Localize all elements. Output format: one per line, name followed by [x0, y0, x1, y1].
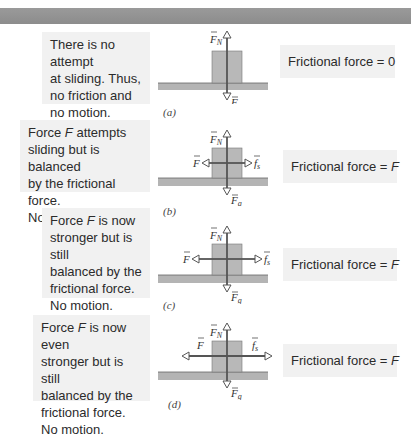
panel-c-description: Force F is now stronger but is still bal… — [42, 208, 150, 298]
description-line: balanced by the — [50, 263, 142, 280]
panel-c-caption: (c) — [163, 299, 175, 311]
vector-F: F — [87, 213, 95, 228]
friction-force-label: fs — [252, 339, 258, 353]
description-line: Force F is now even — [41, 319, 142, 353]
description-line: frictional force. — [41, 404, 142, 421]
result-value: F — [391, 257, 399, 272]
ground — [158, 372, 268, 380]
result-prefix: Frictional force = — [291, 257, 391, 272]
panel-a-caption: (a) — [163, 106, 176, 118]
result-prefix: Frictional force = — [291, 353, 391, 368]
panel-a-diagram: FN Fg — [150, 24, 280, 104]
panel-b-result: Frictional force = F — [283, 150, 397, 183]
result-value: F — [391, 159, 399, 174]
description-line: Force F attempts — [28, 124, 142, 141]
description-line: No motion. — [41, 421, 142, 438]
applied-force-label: F — [182, 253, 190, 265]
ground — [158, 83, 268, 90]
result-prefix: Frictional force = — [291, 159, 391, 174]
description-line: frictional force. — [50, 280, 142, 297]
ground — [158, 275, 268, 283]
panel-a-description: There is no attempt at sliding. Thus, no… — [42, 32, 150, 104]
applied-force-label: F — [192, 157, 200, 169]
description-line: stronger but is still — [41, 353, 142, 387]
panel-d-caption: (d) — [168, 398, 181, 410]
description-line: Force F is now — [50, 212, 142, 229]
vector-F: F — [78, 320, 86, 335]
description-line: at sliding. Thus, — [50, 70, 142, 87]
normal-force-label: FN — [209, 229, 223, 243]
panel-b-description: Force F attempts sliding but is balanced… — [20, 120, 150, 192]
description-line: no motion. — [50, 104, 142, 121]
description-line: No motion. — [50, 297, 142, 314]
description-line: stronger but is still — [50, 229, 142, 263]
description-line: no friction and — [50, 87, 142, 104]
gravity-force-label: Fg — [230, 291, 242, 304]
vector-F: F — [65, 125, 73, 140]
friction-force-label: fs — [264, 253, 270, 267]
ground — [158, 178, 268, 186]
description-line: sliding but is balanced — [28, 141, 142, 175]
result-value: F — [391, 353, 399, 368]
description-line: balanced by the — [41, 387, 142, 404]
result-value: 0 — [388, 54, 395, 69]
description-line: There is no attempt — [50, 36, 142, 70]
normal-force-label: FN — [209, 133, 223, 147]
description-line: by the frictional force. — [28, 175, 142, 209]
gravity-force-label: Fg — [230, 194, 242, 206]
normal-force-label: FN — [209, 33, 223, 47]
panel-b-diagram: FN Fg F fs — [150, 118, 280, 206]
top-banner — [0, 8, 411, 24]
panel-d-diagram: FN Fg F fs — [150, 312, 280, 400]
panel-c-result: Frictional force = F — [283, 248, 397, 281]
friction-force-label: fs — [254, 157, 260, 171]
panel-c-diagram: FN Fg F fs — [150, 214, 280, 304]
panel-d-result: Frictional force = F — [283, 344, 397, 377]
panel-a-result: Frictional force = 0 — [280, 45, 395, 78]
panel-d-description: Force F is now even stronger but is stil… — [33, 315, 150, 401]
gravity-force-label: Fg — [230, 387, 242, 400]
result-prefix: Frictional force = — [288, 54, 388, 69]
applied-force-label: F — [196, 339, 204, 351]
normal-force-label: FN — [209, 326, 223, 340]
